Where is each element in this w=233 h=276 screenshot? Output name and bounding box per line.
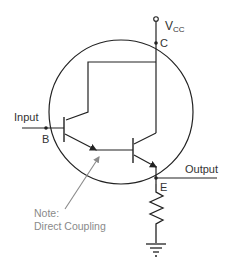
note-line-2: Direct Coupling xyxy=(34,220,106,233)
note-line-1: Note: xyxy=(34,207,106,220)
note-arrow xyxy=(65,157,99,209)
q1-emitter xyxy=(65,134,96,150)
emitter-label: E xyxy=(160,182,167,193)
input-label: Input xyxy=(14,112,38,123)
collector-node-dot xyxy=(154,41,158,45)
q1-collector-wire xyxy=(66,62,156,120)
q2-emitter xyxy=(134,155,156,167)
ground-icon xyxy=(146,244,166,256)
base-label: B xyxy=(42,134,49,145)
base-node-dot xyxy=(44,126,48,130)
vcc-label-main: V xyxy=(165,19,173,33)
collector-label: C xyxy=(160,38,168,49)
darlington-circuit xyxy=(0,0,233,276)
output-label: Output xyxy=(185,164,218,175)
q2-collector xyxy=(134,133,156,144)
note-text: Note: Direct Coupling xyxy=(34,207,106,233)
vcc-label-sub: CC xyxy=(173,25,185,34)
vcc-terminal xyxy=(154,17,159,22)
vcc-label: VCC xyxy=(165,20,185,34)
